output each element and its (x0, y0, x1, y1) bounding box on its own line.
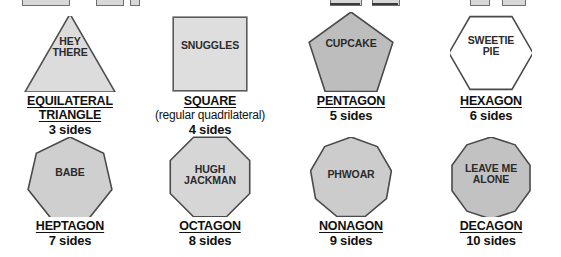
polygon-caption: SQUARE(regular quadrilateral)4 sides (140, 94, 280, 137)
polygon-shape-pentagon: CUPCAKE (281, 7, 421, 92)
polygon-name-text: OCTAGON (179, 219, 241, 233)
polygon-caption: DECAGON10 sides (421, 219, 561, 248)
clipped-shape-fragment (22, 0, 70, 6)
polygon-name: EQUILATERAL (0, 94, 140, 108)
polygon-cell-equilateral-triangle[interactable]: HEYTHEREEQUILATERALTRIANGLE3 sides (0, 7, 140, 135)
polygon-caption: NONAGON9 sides (281, 219, 421, 248)
decagon-icon (450, 137, 532, 217)
polygon-side-count: 8 sides (140, 233, 280, 248)
polygon-subtitle: (regular quadrilateral) (140, 108, 280, 122)
polygon-side-count: 9 sides (281, 233, 421, 248)
equilateral-triangle-icon (18, 16, 122, 92)
polygon-name-text: SQUARE (184, 94, 236, 108)
octagon-icon (168, 135, 252, 217)
polygon-name-text: HEPTAGON (36, 219, 104, 233)
polygon-side-count: 5 sides (281, 108, 421, 123)
polygon-name: PENTAGON (281, 94, 421, 108)
polygon-cell-pentagon[interactable]: CUPCAKEPENTAGON5 sides (281, 7, 421, 135)
polygon-name-text: EQUILATERAL (27, 94, 113, 108)
polygon-shape-equilateral-triangle: HEYTHERE (0, 7, 140, 92)
polygon-shape-hexagon: SWEETIEPIE (421, 7, 561, 92)
polygon-shape-square: SNUGGLES (140, 7, 280, 92)
clipped-shape-fragment (130, 0, 140, 6)
polygon-name-text: HEXAGON (460, 94, 522, 108)
polygon-caption: PENTAGON5 sides (281, 94, 421, 123)
nonagon-icon (310, 137, 392, 217)
hexagon-icon (450, 14, 532, 92)
polygon-name-text: DECAGON (460, 219, 523, 233)
polygon-name: DECAGON (421, 219, 561, 233)
polygon-shape-heptagon: BABE (0, 135, 140, 217)
heptagon-icon (27, 137, 113, 217)
polygon-name-text: PENTAGON (317, 94, 385, 108)
polygon-name-text: NONAGON (319, 219, 383, 233)
clipped-underline-fragment (330, 3, 360, 5)
polygon-caption: OCTAGON8 sides (140, 219, 280, 248)
clipped-shape-fragment (502, 0, 526, 6)
polygon-cell-heptagon[interactable]: BABEHEPTAGON7 sides (0, 135, 140, 257)
clipped-shape-fragment (470, 0, 490, 6)
polygon-cell-decagon[interactable]: LEAVE MEALONEDECAGON10 sides (421, 135, 561, 257)
square-icon (172, 16, 248, 92)
polygon-name: OCTAGON (140, 219, 280, 233)
polygon-name: HEPTAGON (0, 219, 140, 233)
polygon-side-count: 7 sides (0, 233, 140, 248)
clipped-shape-fragment (96, 0, 124, 6)
clipped-top-row (0, 0, 561, 7)
polygon-name: HEXAGON (421, 94, 561, 108)
pentagon-icon (308, 12, 394, 92)
clipped-underline-fragment (372, 3, 398, 5)
polygon-side-count: 10 sides (421, 233, 561, 248)
polygon-name-text: TRIANGLE (39, 108, 101, 122)
polygon-cell-square[interactable]: SNUGGLESSQUARE(regular quadrilateral)4 s… (140, 7, 280, 135)
polygon-cell-hexagon[interactable]: SWEETIEPIEHEXAGON6 sides (421, 7, 561, 135)
polygon-name: TRIANGLE (0, 108, 140, 122)
polygon-shape-nonagon: PHWOAR (281, 135, 421, 217)
polygon-caption: HEXAGON6 sides (421, 94, 561, 123)
polygon-name: SQUARE (140, 94, 280, 108)
polygon-name: NONAGON (281, 219, 421, 233)
polygon-caption: HEPTAGON7 sides (0, 219, 140, 248)
polygon-cell-nonagon[interactable]: PHWOARNONAGON9 sides (281, 135, 421, 257)
polygon-caption: EQUILATERALTRIANGLE3 sides (0, 94, 140, 137)
polygon-side-count: 6 sides (421, 108, 561, 123)
polygon-shape-octagon: HUGHJACKMAN (140, 135, 280, 217)
polygon-shape-decagon: LEAVE MEALONE (421, 135, 561, 217)
polygon-chart-sheet: HEYTHEREEQUILATERALTRIANGLE3 sidesSNUGGL… (0, 0, 561, 257)
polygon-grid: HEYTHEREEQUILATERALTRIANGLE3 sidesSNUGGL… (0, 7, 561, 257)
polygon-cell-octagon[interactable]: HUGHJACKMANOCTAGON8 sides (140, 135, 280, 257)
